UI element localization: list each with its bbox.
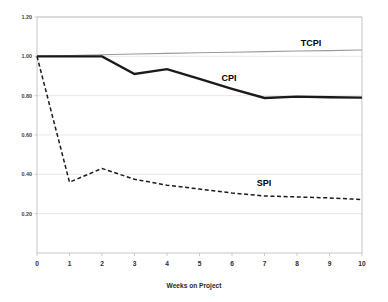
y-axis-tick-label: 0.20	[22, 211, 33, 217]
ipi-trend-line-chart: 1.201.000.800.600.400.20 012345678910 TC…	[0, 0, 388, 302]
x-axis-tick-labels: 012345678910	[35, 253, 366, 267]
y-axis-tick-label: 0.80	[22, 93, 33, 99]
x-axis-tick-label: 5	[198, 260, 202, 267]
y-axis-tick-label: 1.20	[22, 14, 33, 20]
data-series-lines	[37, 50, 362, 199]
x-axis-tick-label: 8	[295, 260, 299, 267]
x-axis-tick-label: 10	[358, 260, 366, 267]
x-axis-tick-label: 3	[133, 260, 137, 267]
series-label-spi: SPI	[257, 178, 272, 188]
y-axis-tick-label: 0.40	[22, 171, 33, 177]
x-axis-tick-label: 0	[35, 260, 39, 267]
x-axis-tick-label: 4	[165, 260, 169, 267]
x-axis-tick-label: 7	[263, 260, 267, 267]
x-axis-tick-label: 1	[68, 260, 72, 267]
x-axis-tick-label: 6	[230, 260, 234, 267]
series-label-cpi: CPI	[221, 73, 236, 83]
x-axis-tick-label: 2	[100, 260, 104, 267]
y-axis-tick-label: 1.00	[22, 53, 33, 59]
series-label-tcpi: TCPI	[301, 38, 322, 48]
x-axis-title: Weeks on Project	[167, 282, 223, 290]
chart-container: 1.201.000.800.600.400.20 012345678910 TC…	[0, 0, 388, 302]
series-line-cpi	[37, 56, 362, 98]
y-axis-tick-labels: 1.201.000.800.600.400.20	[22, 14, 38, 217]
series-annotations: TCPICPISPI	[221, 38, 321, 188]
y-axis-tick-label: 0.60	[22, 132, 33, 138]
x-axis-tick-label: 9	[328, 260, 332, 267]
